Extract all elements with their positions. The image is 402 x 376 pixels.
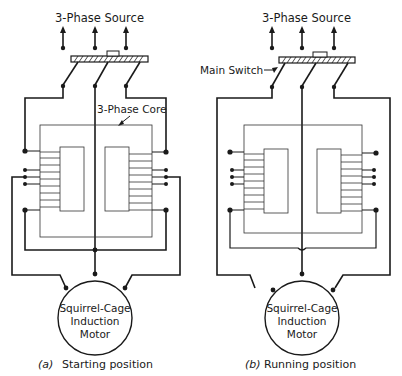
switch-blades-a bbox=[61, 62, 140, 88]
coil-right-a bbox=[129, 154, 152, 210]
three-phase-core bbox=[40, 125, 152, 237]
coil-left-a bbox=[40, 152, 60, 207]
source-arrows-b bbox=[269, 26, 337, 50]
core-label: 3-Phase Core bbox=[97, 103, 166, 115]
source-label-b: 3-Phase Source bbox=[262, 11, 351, 25]
motor-label-line3: Motor bbox=[287, 328, 318, 340]
motor-label-line1: Squirrel-Cage bbox=[266, 302, 337, 314]
coil-left-b bbox=[244, 154, 264, 209]
switch-blades-b bbox=[270, 63, 348, 89]
main-switch-label: Main Switch bbox=[200, 64, 263, 76]
motor-label-line3: Motor bbox=[80, 328, 111, 340]
coil-right-b bbox=[341, 155, 362, 211]
diagram-canvas: 3-Phase Source 3-Phase Core bbox=[0, 0, 402, 376]
source-label-a: 3-Phase Source bbox=[55, 11, 144, 25]
caption-prefix-b: (b) bbox=[245, 358, 261, 371]
panel-a-starting: 3-Phase Source 3-Phase Core bbox=[12, 11, 180, 371]
panel-b-running: 3-Phase Source Main Switch bbox=[200, 11, 390, 371]
source-arrows-a bbox=[60, 26, 129, 50]
motor-label-line2: Induction bbox=[278, 315, 327, 327]
motor-label-line2: Induction bbox=[71, 315, 120, 327]
caption-a: Starting position bbox=[62, 358, 153, 371]
switch-bar-a bbox=[71, 51, 148, 62]
caption-prefix-a: (a) bbox=[38, 358, 53, 371]
caption-b: Running position bbox=[264, 358, 356, 371]
motor-label-line1: Squirrel-Cage bbox=[59, 302, 130, 314]
switch-bar-b bbox=[279, 52, 355, 63]
